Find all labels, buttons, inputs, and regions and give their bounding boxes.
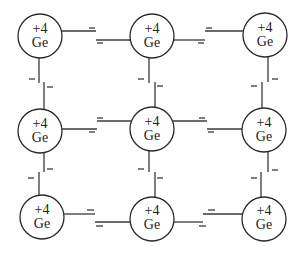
bond-r1c2-r2c2 [138, 58, 163, 108]
atom-charge-label: +4 [257, 203, 272, 218]
bond-r2c2-r2c3 [173, 118, 242, 132]
bond-r1c2-r1c3 [174, 28, 243, 43]
atom-charge-label: +4 [33, 116, 48, 131]
lattice-svg: +4 Ge +4 Ge +4 Ge +4 Ge +4 Ge +4 Ge +4 G… [0, 0, 308, 257]
germanium-lattice-diagram: +4 Ge +4 Ge +4 Ge +4 Ge +4 Ge +4 Ge +4 G… [0, 0, 308, 257]
atom-element-label: Ge [256, 217, 272, 232]
atom-charge-label: +4 [35, 202, 50, 217]
atom-element-label: Ge [144, 217, 160, 232]
atom-element-label: Ge [32, 130, 48, 145]
atom-element-label: Ge [32, 35, 48, 50]
bond-r1c1-r2c1 [29, 58, 53, 110]
atom-charge-label: +4 [145, 114, 160, 129]
atom-element-label: Ge [34, 216, 50, 231]
atom-ge-r3c3: +4 Ge [242, 197, 286, 241]
bond-r3c2-r3c3 [173, 210, 243, 226]
bond-r3c1-r3c2 [64, 210, 131, 226]
atom-charge-label: +4 [145, 21, 160, 36]
atom-element-label: Ge [256, 129, 272, 144]
bond-r2c1-r3c1 [28, 152, 53, 196]
atom-ge-r2c1: +4 Ge [18, 109, 62, 153]
atom-element-label: Ge [144, 128, 160, 143]
atom-ge-r3c1: +4 Ge [20, 195, 64, 239]
bond-r1c1-r1c2 [62, 28, 130, 43]
atom-ge-r3c2: +4 Ge [130, 197, 174, 241]
bond-r1c3-r2c3 [251, 56, 278, 108]
atom-ge-r1c1: +4 Ge [18, 14, 62, 58]
atom-charge-label: +4 [258, 20, 273, 35]
atom-ge-r1c2: +4 Ge [130, 14, 174, 58]
bond-r2c1-r2c2 [62, 118, 131, 132]
bond-r2c2-r3c2 [138, 150, 163, 198]
atom-charge-label: +4 [145, 203, 160, 218]
atom-element-label: Ge [144, 35, 160, 50]
atom-ge-r2c2: +4 Ge [130, 107, 174, 151]
bond-r2c3-r3c3 [251, 151, 278, 198]
atom-charge-label: +4 [257, 115, 272, 130]
atom-charge-label: +4 [33, 21, 48, 36]
atom-ge-r1c3: +4 Ge [243, 13, 287, 57]
atom-ge-r2c3: +4 Ge [242, 108, 286, 152]
atom-element-label: Ge [257, 34, 273, 49]
